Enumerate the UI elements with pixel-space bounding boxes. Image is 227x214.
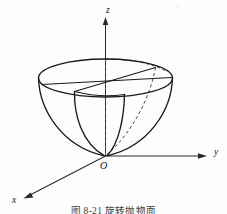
y-axis (106, 153, 208, 159)
y-axis-label: y (213, 147, 219, 157)
y-axis-arrowhead (198, 153, 207, 159)
x-axis-arrowhead (24, 192, 34, 198)
figure-caption: 图 8-21 旋转抛物面 (0, 204, 227, 214)
z-axis-label: z (105, 5, 110, 15)
outer-parabola-left (39, 78, 105, 156)
x-axis (24, 156, 106, 198)
origin-label: O (100, 160, 107, 171)
x-axis-line (30, 156, 106, 195)
figure-caption-clip: 图 8-21 旋转抛物面 (0, 204, 227, 214)
z-axis-arrowhead (103, 17, 109, 25)
figure-canvas: z y x O 图 8-21 旋转抛物面 (0, 0, 227, 214)
paraboloid-diagram: z y x O (0, 0, 227, 214)
cut-inner-rim-arc (75, 92, 125, 96)
outer-parabola-right (107, 78, 173, 156)
